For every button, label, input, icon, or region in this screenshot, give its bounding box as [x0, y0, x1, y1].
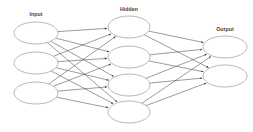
node-input-1[interactable]: [14, 22, 58, 44]
edges-hidden-to-output: [142, 31, 211, 106]
layer-label-output: Output: [216, 26, 234, 32]
node-output-2[interactable]: [203, 65, 247, 87]
connection-edge: [56, 68, 109, 81]
node-input-3[interactable]: [14, 82, 58, 104]
layer-label-input: Input: [29, 11, 42, 17]
connection-edge: [144, 35, 209, 68]
connection-edge: [58, 28, 107, 31]
connection-edge: [142, 57, 211, 104]
connection-edge: [53, 64, 111, 86]
connection-edge: [149, 31, 204, 42]
connection-edge: [56, 97, 108, 108]
layer-label-hidden: Hidden: [120, 6, 138, 12]
network-canvas: InputHiddenOutput: [0, 0, 253, 132]
connection-edge: [146, 54, 207, 78]
node-input-2[interactable]: [14, 52, 58, 74]
neural-network-diagram: InputHiddenOutput: [0, 0, 253, 132]
node-hidden-3[interactable]: [108, 74, 150, 96]
connection-edge: [150, 78, 203, 83]
node-hidden-1[interactable]: [108, 16, 150, 38]
connection-edge: [150, 49, 203, 54]
node-output-1[interactable]: [203, 36, 247, 58]
nodes-group: [14, 16, 247, 123]
node-hidden-4[interactable]: [108, 101, 150, 123]
connection-edge: [49, 37, 116, 84]
connection-edge: [53, 34, 111, 56]
node-hidden-2[interactable]: [108, 46, 150, 68]
